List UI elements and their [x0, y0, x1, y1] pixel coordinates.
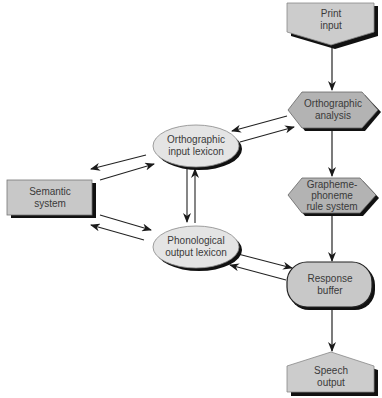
- arrow-semantic-to-oil: [100, 164, 154, 180]
- pol-line2: output lexicon: [165, 247, 227, 258]
- speech-line1: Speech: [314, 365, 348, 376]
- arrow-pol-to-response: [238, 254, 292, 268]
- arrow-semantic-to-pol: [100, 215, 151, 230]
- response-line2: buffer: [317, 285, 343, 296]
- node-semantic-system: Semantic system: [7, 180, 96, 218]
- semantic-line1: Semantic: [29, 186, 71, 197]
- grapheme-line3: rule system: [306, 201, 357, 212]
- node-response-buffer: Response buffer: [287, 262, 375, 310]
- oil-line2: input lexicon: [168, 146, 224, 157]
- response-line1: Response: [307, 273, 352, 284]
- pol-line1: Phonological: [167, 235, 224, 246]
- grapheme-line1: Grapheme-: [307, 179, 358, 190]
- arrow-analysis-to-oil: [232, 116, 287, 131]
- reading-model-diagram: Print input Orthographic analysis Orthog…: [0, 0, 382, 398]
- node-speech-output: Speech output: [287, 352, 378, 396]
- arrow-oil-to-semantic: [91, 155, 146, 169]
- semantic-line2: system: [34, 198, 66, 209]
- orthographic-analysis-line2: analysis: [315, 110, 351, 121]
- print-input-line2: input: [320, 20, 342, 31]
- speech-line2: output: [317, 377, 345, 388]
- oil-line1: Orthographic: [167, 134, 225, 145]
- arrow-pol-to-semantic: [91, 225, 144, 240]
- arrow-response-to-pol: [230, 265, 286, 280]
- node-phonological-output-lexicon: Phonological output lexicon: [153, 226, 242, 271]
- grapheme-line2: phoneme: [311, 190, 353, 201]
- node-orthographic-input-lexicon: Orthographic input lexicon: [153, 125, 242, 170]
- node-grapheme-phoneme: Grapheme- phoneme rule system: [288, 178, 379, 216]
- node-print-input: Print input: [287, 3, 378, 49]
- print-input-line1: Print: [321, 8, 342, 19]
- node-orthographic-analysis: Orthographic analysis: [288, 92, 381, 131]
- orthographic-analysis-line1: Orthographic: [304, 98, 362, 109]
- arrow-oil-to-analysis: [240, 127, 294, 142]
